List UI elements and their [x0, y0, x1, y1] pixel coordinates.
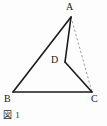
vertex-label-c: C [91, 94, 98, 104]
figure-caption: 図 1 [3, 110, 20, 121]
vertex-label-d: D [51, 55, 58, 65]
figure-container: A B C D 図 1 [0, 0, 107, 126]
vertex-label-a: A [66, 2, 73, 12]
vertex-label-b: B [4, 94, 11, 104]
segment-A-B [13, 17, 71, 92]
